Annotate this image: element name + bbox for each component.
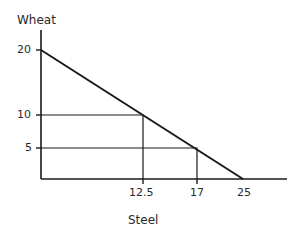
y-tick-label-20: 20 bbox=[17, 44, 31, 56]
chart-canvas bbox=[0, 0, 302, 239]
x-tick-label-25: 25 bbox=[237, 187, 251, 199]
x-axis-label: Steel bbox=[128, 214, 158, 226]
reference-line-5 bbox=[41, 148, 197, 179]
x-tick-label-17: 17 bbox=[190, 187, 204, 199]
y-axis-label: Wheat bbox=[17, 14, 56, 26]
x-tick-label-12-5: 12.5 bbox=[129, 187, 154, 199]
y-tick-label-10: 10 bbox=[17, 109, 31, 121]
y-tick-label-5: 5 bbox=[25, 142, 32, 154]
reference-line-10 bbox=[41, 115, 143, 179]
